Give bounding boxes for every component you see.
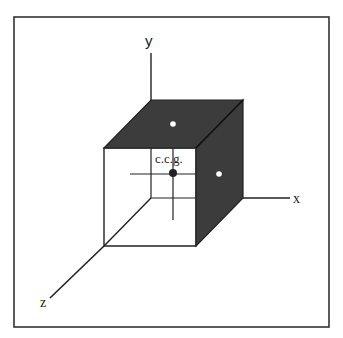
cube-axes-diagram: c.c.g. y x z xyxy=(0,0,343,338)
z-axis xyxy=(50,246,104,298)
right-face-point-marker xyxy=(216,171,222,177)
z-axis-label: z xyxy=(40,295,46,310)
center-point-marker xyxy=(169,169,177,177)
center-label: c.c.g. xyxy=(155,151,183,166)
x-axis-label: x xyxy=(293,191,300,206)
y-axis-label: y xyxy=(145,32,153,49)
top-face-point-marker xyxy=(170,121,176,127)
